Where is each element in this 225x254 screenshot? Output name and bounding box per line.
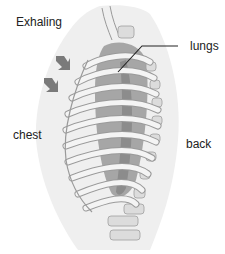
chest-label: chest — [13, 129, 42, 141]
diagram-title: Exhaling — [16, 16, 62, 28]
exhaling-diagram: Exhaling lungs chest back — [0, 0, 225, 254]
lungs-label: lungs — [190, 40, 219, 52]
back-label: back — [186, 138, 211, 150]
